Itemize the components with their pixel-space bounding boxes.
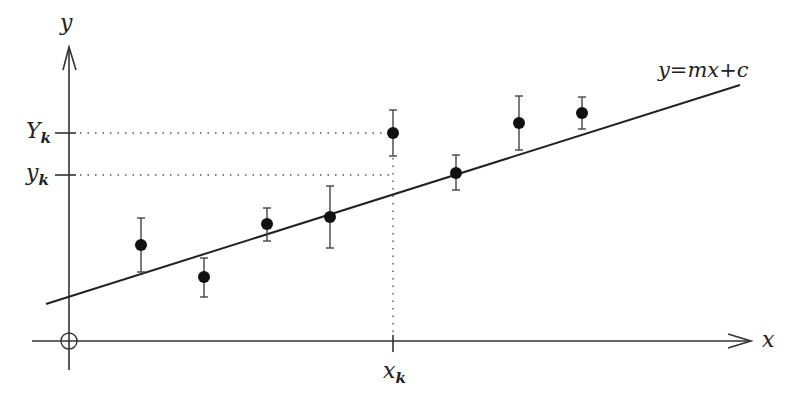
axis-ticks	[55, 133, 393, 352]
data-point	[324, 186, 336, 248]
x-axis	[32, 334, 751, 348]
y-k-label: yk	[26, 162, 49, 188]
Y-k-label: Yk	[26, 120, 51, 146]
point-marker-icon	[513, 117, 525, 129]
Y-k-main: Y	[26, 118, 41, 143]
point-marker-icon	[450, 167, 462, 179]
x-axis-label: x	[762, 329, 774, 351]
data-points	[135, 96, 588, 297]
point-marker-icon	[198, 271, 210, 283]
data-point	[576, 97, 588, 129]
data-point	[513, 96, 525, 150]
fit-line-equation: y=mx+c	[658, 58, 749, 82]
Y-k-sub: k	[41, 129, 51, 147]
data-point	[387, 110, 399, 156]
data-point	[135, 218, 147, 272]
y-axis	[63, 47, 76, 370]
point-marker-icon	[576, 107, 588, 119]
dotted-guides	[80, 133, 393, 333]
x-k-label: xk	[383, 360, 406, 386]
y-k-sub: k	[38, 171, 48, 189]
y-k-main: y	[26, 160, 38, 185]
y-axis-label-text: y	[60, 10, 72, 35]
x-k-sub: k	[395, 369, 405, 387]
x-k-main: x	[383, 358, 395, 383]
y-axis-label: y	[60, 12, 72, 34]
point-marker-icon	[324, 211, 336, 223]
data-point	[198, 258, 210, 297]
fit-line-label: y=mx+c	[658, 60, 749, 81]
x-axis-label-text: x	[762, 327, 774, 352]
point-marker-icon	[261, 218, 273, 230]
point-marker-icon	[387, 127, 399, 139]
point-marker-icon	[135, 239, 147, 251]
data-point	[450, 155, 462, 190]
least-squares-diagram: y x y=mx+c Yk yk xk	[0, 0, 798, 399]
